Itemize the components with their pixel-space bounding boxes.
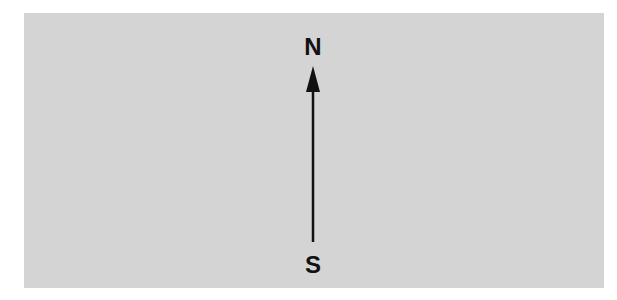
south-label: S	[293, 253, 333, 277]
